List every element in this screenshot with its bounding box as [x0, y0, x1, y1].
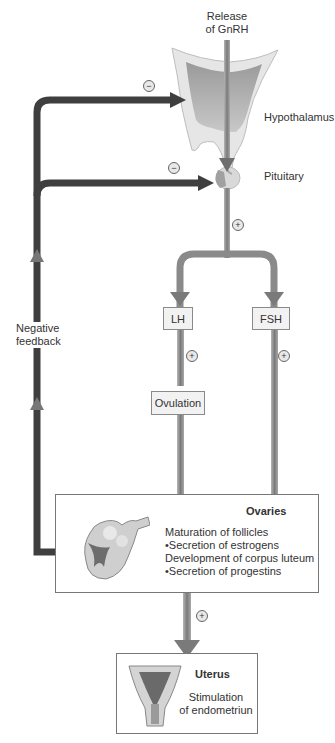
- inhibit-pituitary-sign: −: [168, 162, 180, 174]
- fsh-box: FSH: [252, 307, 290, 330]
- stimulate-fsh-sign: +: [278, 350, 290, 362]
- uterus-title: Uterus: [195, 668, 230, 681]
- gnrh-label-line1: Release: [202, 10, 252, 23]
- gnrh-release-label: Release of GnRH: [202, 10, 252, 36]
- uterus-description: Stimulation of endometriun: [179, 691, 253, 717]
- ovaries-panel: Ovaries Maturation of follicles •Secreti…: [55, 494, 319, 593]
- stimulate-pituitary-sign: +: [232, 219, 244, 231]
- feedback-label-line1: Negative: [16, 322, 61, 335]
- ovary-illustration: [70, 499, 150, 589]
- ovaries-line-4: •Secretion of progestins: [165, 565, 281, 578]
- ovaries-title: Ovaries: [246, 505, 286, 518]
- inhibit-hypothalamus-sign: −: [143, 80, 155, 92]
- ovaries-to-uterus-arrow: [174, 592, 200, 658]
- pituitary-label: Pituitary: [264, 170, 304, 183]
- ovaries-line-3: Development of corpus luteum: [165, 552, 314, 565]
- ovulation-box: Ovulation: [151, 391, 205, 415]
- pituitary-output-arrow: [170, 188, 284, 320]
- lh-box: LH: [163, 307, 193, 330]
- gnrh-label-line2: of GnRH: [202, 23, 252, 36]
- ovaries-line-2: •Secretion of estrogens: [165, 539, 279, 552]
- stimulate-lh-sign: +: [186, 350, 198, 362]
- uterus-panel: Uterus Stimulation of endometriun: [116, 653, 258, 734]
- uterus-line-1: Stimulation: [179, 691, 253, 704]
- ovaries-line-1: Maturation of follicles: [165, 526, 268, 539]
- feedback-label-line2: feedback: [16, 335, 61, 348]
- stimulate-uterus-sign: +: [196, 610, 208, 622]
- uterus-line-2: of endometriun: [179, 704, 253, 717]
- uterus-illustration: [125, 660, 185, 730]
- hypothalamus-label: Hypothalamus: [264, 111, 334, 124]
- negative-feedback-label: Negative feedback: [16, 322, 61, 348]
